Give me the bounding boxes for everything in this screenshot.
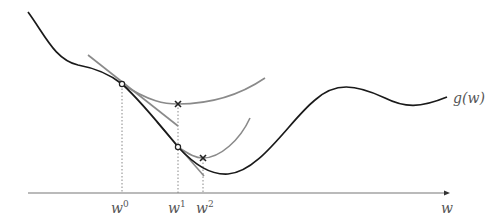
- tick-w1: w1: [168, 199, 186, 216]
- horizontal-axis: [28, 191, 450, 196]
- axis-arrow-icon: [444, 191, 450, 196]
- quadratic-approx-1: [122, 78, 265, 104]
- point-w0: [119, 81, 124, 86]
- point-w1: [175, 144, 180, 149]
- dotted-guides: [122, 85, 203, 193]
- newton-method-diagram: g(w) w w0 w1 w2: [0, 0, 502, 224]
- quadratic-approx-2: [178, 118, 250, 158]
- tick-w2: w2: [196, 199, 214, 216]
- tick-w0: w0: [111, 199, 129, 216]
- curve-label: g(w): [453, 90, 485, 106]
- axis-label: w: [441, 200, 453, 216]
- tangent-line-1: [88, 55, 178, 126]
